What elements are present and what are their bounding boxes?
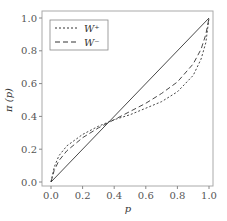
x-tick-label: 0.2	[75, 190, 91, 201]
y-tick-label: 0.4	[21, 111, 37, 122]
x-axis-label: p	[125, 203, 132, 214]
y-tick-label: 0.2	[21, 144, 37, 155]
chart: 0.00.20.40.60.81.00.00.20.40.60.81.0 W⁺ …	[0, 0, 227, 221]
x-tick-label: 0.6	[138, 190, 154, 201]
y-tick-label: 0.8	[21, 45, 37, 56]
x-tick-label: 0.4	[106, 190, 122, 201]
legend-box: W⁺ W⁻	[50, 20, 108, 50]
y-axis-label: π (p)	[3, 88, 14, 113]
legend-w-plus: W⁺	[84, 23, 100, 34]
y-tick-label: 0.6	[21, 78, 37, 89]
y-tick-label: 1.0	[21, 13, 37, 24]
x-tick-label: 1.0	[201, 190, 217, 201]
y-tick-label: 0.0	[21, 177, 37, 188]
x-tick-label: 0.0	[43, 190, 59, 201]
legend-w-minus: W⁻	[84, 37, 100, 48]
x-tick-label: 0.8	[169, 190, 185, 201]
